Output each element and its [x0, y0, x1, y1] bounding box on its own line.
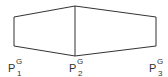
label-p2: P G 2: [69, 63, 76, 74]
label-p1-sup: G: [16, 58, 22, 66]
label-p3-base: P: [149, 62, 156, 74]
label-p1-base: P: [8, 62, 15, 74]
outer-hexagon: [14, 6, 156, 56]
label-p2-sup: G: [77, 58, 83, 66]
label-p1: P G 1: [8, 63, 15, 74]
label-p3-sup: G: [157, 58, 163, 66]
label-p3: P G 3: [149, 63, 156, 74]
polygon-diagram: [0, 0, 168, 77]
label-p3-sub: 3: [158, 70, 162, 77]
label-p2-sub: 2: [78, 70, 82, 77]
label-p1-sub: 1: [17, 70, 21, 77]
label-p2-base: P: [69, 62, 76, 74]
